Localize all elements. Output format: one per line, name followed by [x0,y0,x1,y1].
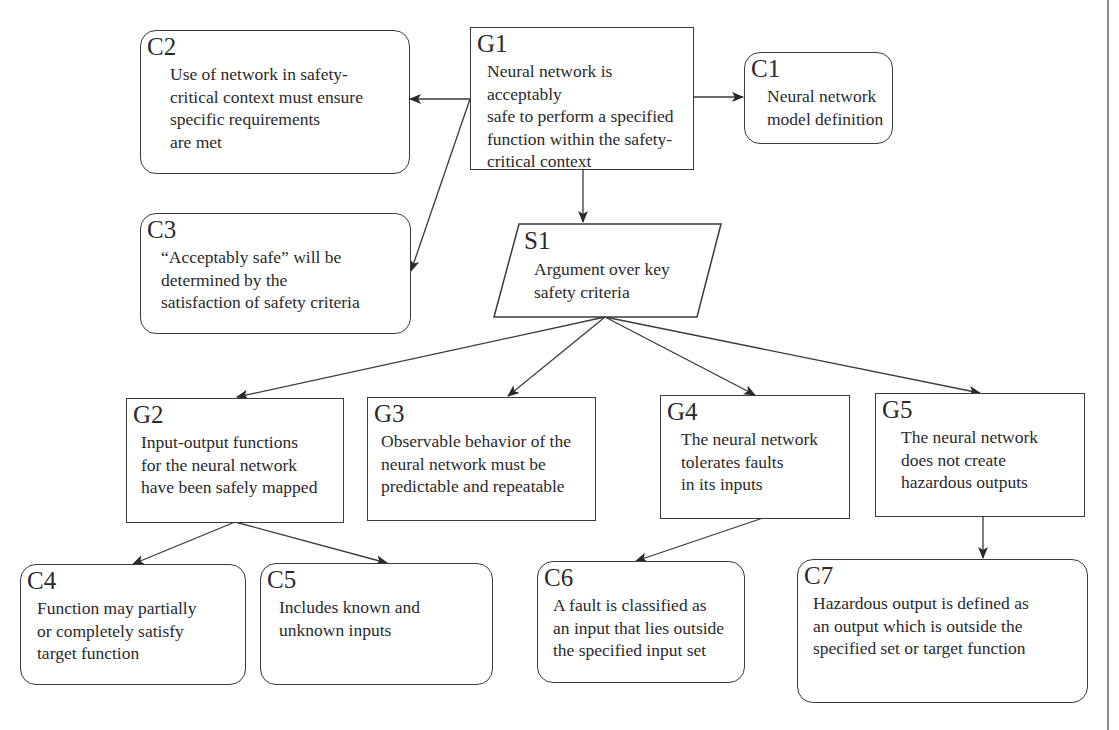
goal-g4: G4 The neural network tolerates faults i… [660,395,850,519]
node-text: Use of network in safety- critical conte… [170,63,403,153]
context-c6: C6 A fault is classified as an input tha… [537,561,745,683]
page-border-line [1107,0,1109,730]
node-text: Neural network is acceptably safe to per… [487,60,687,173]
node-id: C5 [267,566,296,594]
node-text: Argument over key safety criteria [534,258,670,303]
node-text: The neural network does not create hazar… [901,426,1078,494]
node-id: C6 [544,564,573,592]
node-id: G5 [882,396,913,424]
node-text: The neural network tolerates faults in i… [681,428,843,496]
node-id: C1 [751,55,780,83]
node-text: Neural network model definition [767,85,886,130]
node-text: A fault is classified as an input that l… [553,594,738,662]
node-text: Function may partially or completely sat… [37,597,239,665]
node-id: G1 [477,30,508,58]
node-text: Hazardous output is defined as an output… [813,592,1081,660]
node-id: G3 [374,400,405,428]
edge-g4-c6 [636,518,763,561]
goal-g2: G2 Input-output functions for the neural… [126,398,344,523]
context-c3: C3 “Acceptably safe” will be determined … [140,213,411,334]
node-id: C3 [147,216,176,244]
node-text: “Acceptably safe” will be determined by … [161,246,404,314]
context-c2: C2 Use of network in safety- critical co… [140,30,410,174]
node-text: Input-output functions for the neural ne… [141,431,337,499]
strategy-s1: S1 Argument over key safety criteria [494,224,721,317]
goal-g5: G5 The neural network does not create ha… [875,393,1085,517]
node-id: C4 [27,567,56,595]
edge-s1-g4 [605,317,755,395]
context-c5: C5 Includes known and unknown inputs [260,563,493,685]
edge-g1-c3 [411,99,470,271]
node-id: G2 [133,401,164,429]
goal-g1: G1 Neural network is acceptably safe to … [470,27,694,170]
edge-s1-g5 [605,317,980,393]
edge-g2-c5 [235,522,387,563]
context-c1: C1 Neural network model definition [744,52,893,144]
context-c4: C4 Function may partially or completely … [20,564,246,685]
node-id: C7 [804,562,833,590]
node-id: C2 [147,33,176,61]
context-c7: C7 Hazardous output is defined as an out… [797,559,1088,703]
edge-g2-c4 [133,522,235,564]
goal-g3: G3 Observable behavior of the neural net… [367,397,596,521]
node-text: Includes known and unknown inputs [279,596,486,641]
node-text: Observable behavior of the neural networ… [381,430,589,498]
edge-s1-g3 [508,317,605,396]
node-id: G4 [667,398,698,426]
node-id: S1 [524,227,550,255]
